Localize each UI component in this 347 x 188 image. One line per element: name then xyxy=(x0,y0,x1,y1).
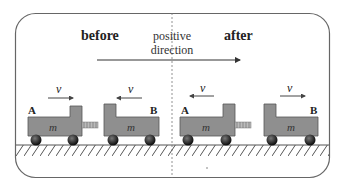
mass-label-b-before: m xyxy=(127,121,135,133)
collision-diagram: before after positive direction v v v v … xyxy=(0,0,347,188)
mass-label-a-after: m xyxy=(202,121,210,133)
mass-label-b-after: m xyxy=(287,121,295,133)
cart-a-after-label: A xyxy=(181,104,189,116)
velocity-label-a-after: v xyxy=(200,81,205,96)
ground-hatching xyxy=(16,145,329,156)
velocity-label-a-before: v xyxy=(56,82,61,97)
cart-a-before-label: A xyxy=(28,104,36,116)
mass-label-a-before: m xyxy=(49,121,57,133)
spring-before xyxy=(82,122,98,128)
positive-direction-label: positive direction xyxy=(142,29,202,57)
cart-b-before-label: B xyxy=(150,104,157,116)
floor-dot xyxy=(206,167,208,169)
velocity-label-b-before: v xyxy=(128,82,133,97)
velocity-label-b-after: v xyxy=(287,81,292,96)
cart-b-after-label: B xyxy=(310,104,317,116)
spring-after xyxy=(235,122,251,128)
after-heading: after xyxy=(224,28,253,44)
before-heading: before xyxy=(81,28,119,44)
positive-direction-line1: positive xyxy=(142,29,202,43)
positive-direction-line2: direction xyxy=(142,43,202,57)
